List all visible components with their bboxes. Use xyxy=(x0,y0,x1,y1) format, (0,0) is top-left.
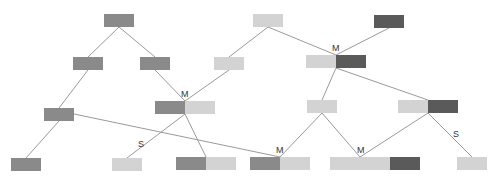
node-cell xyxy=(457,157,487,170)
edge xyxy=(322,113,360,157)
node-cell xyxy=(428,100,458,113)
node-cell xyxy=(398,100,428,113)
node-cell xyxy=(360,157,390,170)
tree-diagram: MMSMMS xyxy=(0,0,502,180)
edge xyxy=(336,28,389,55)
node-cell xyxy=(306,55,336,68)
node-cell xyxy=(280,157,310,170)
edge-label: M xyxy=(332,44,340,53)
node-cell xyxy=(112,158,142,171)
edge xyxy=(127,114,185,158)
node-cell xyxy=(140,57,170,70)
node-cell xyxy=(390,157,420,170)
edge xyxy=(229,27,268,57)
node-cell xyxy=(44,108,74,121)
edge xyxy=(428,113,472,157)
edge xyxy=(119,27,155,57)
edge xyxy=(268,27,336,55)
edge-layer xyxy=(0,0,502,180)
edge xyxy=(88,27,119,57)
node-cell xyxy=(253,14,283,27)
edge xyxy=(26,121,59,158)
edge-label: M xyxy=(357,146,365,155)
node-cell xyxy=(104,14,134,27)
edge xyxy=(185,114,206,157)
node-cell xyxy=(11,158,41,171)
node-cell xyxy=(73,57,103,70)
edge-label: M xyxy=(181,90,189,99)
edge-label: S xyxy=(138,140,144,149)
edge xyxy=(360,113,428,157)
edge xyxy=(322,68,336,100)
node-cell xyxy=(176,157,206,170)
edge xyxy=(59,70,88,108)
node-cell xyxy=(330,157,360,170)
edge-label: M xyxy=(276,146,284,155)
edge xyxy=(280,113,322,157)
edge-label: S xyxy=(453,130,459,139)
node-cell xyxy=(214,57,244,70)
edge xyxy=(185,70,229,101)
node-cell xyxy=(336,55,366,68)
node-cell xyxy=(185,101,215,114)
node-cell xyxy=(374,15,404,28)
edge xyxy=(336,68,428,100)
node-cell xyxy=(155,101,185,114)
node-cell xyxy=(307,100,337,113)
node-cell xyxy=(250,157,280,170)
node-cell xyxy=(206,157,236,170)
